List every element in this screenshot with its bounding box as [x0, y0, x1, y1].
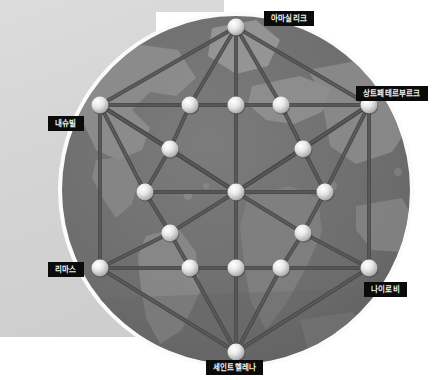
- graph-node[interactable]: [295, 141, 312, 158]
- graph-edge-highlight: [100, 233, 170, 268]
- graph-node-labelled[interactable]: [92, 97, 109, 114]
- graph-edge-highlight: [100, 268, 236, 352]
- diagram-canvas: 아마실리크상트페테르부르크내슈빌리마스나이로비세인트헬레나: [0, 0, 445, 380]
- graph-edge-highlight: [236, 27, 369, 105]
- graph-node[interactable]: [273, 260, 290, 277]
- graph-node-labelled[interactable]: [92, 260, 109, 277]
- graph-edge-highlight: [100, 27, 236, 105]
- graph-node[interactable]: [228, 184, 245, 201]
- graph-node[interactable]: [182, 260, 199, 277]
- graph-node-labelled[interactable]: [228, 344, 245, 361]
- city-label-amassalik[interactable]: 아마실리크: [264, 11, 314, 26]
- city-label-limas[interactable]: 리마스: [48, 262, 84, 277]
- city-label-saint-helena[interactable]: 세인트헬레나: [206, 360, 263, 375]
- graph-edge-highlight: [236, 192, 303, 233]
- graph-edge-highlight: [236, 268, 369, 352]
- graph-node[interactable]: [162, 225, 179, 242]
- graph-edge-highlight: [303, 233, 369, 268]
- graph-node[interactable]: [273, 97, 290, 114]
- network-graph: [0, 0, 445, 380]
- graph-node-labelled[interactable]: [361, 260, 378, 277]
- graph-node[interactable]: [228, 97, 245, 114]
- graph-node[interactable]: [228, 260, 245, 277]
- graph-edge-highlight: [170, 192, 236, 233]
- graph-node-labelled[interactable]: [228, 19, 245, 36]
- graph-edge-highlight: [170, 149, 236, 192]
- city-label-nashville[interactable]: 내슈빌: [48, 116, 84, 131]
- globe-container: [0, 0, 445, 380]
- city-label-nairobi[interactable]: 나이로비: [364, 282, 407, 297]
- graph-edge-highlight: [236, 149, 303, 192]
- graph-node[interactable]: [137, 184, 154, 201]
- city-label-saint-petersburg[interactable]: 상트페테르부르크: [356, 86, 428, 101]
- graph-node[interactable]: [162, 141, 179, 158]
- graph-node[interactable]: [182, 97, 199, 114]
- graph-node[interactable]: [317, 184, 334, 201]
- graph-node[interactable]: [295, 225, 312, 242]
